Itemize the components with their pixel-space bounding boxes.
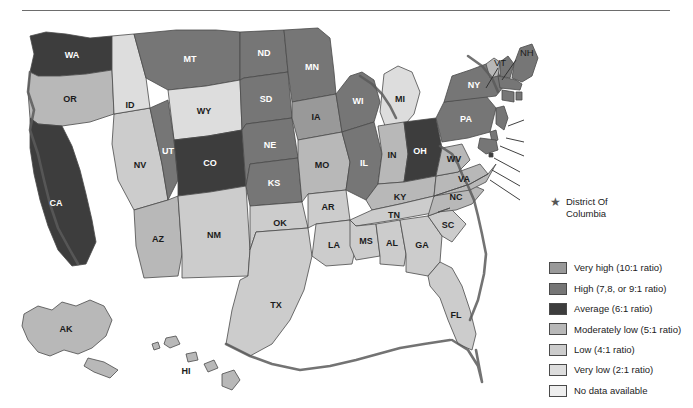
legend-swatch-moderately-low <box>549 323 567 335</box>
legend-item-very-high[interactable]: Very high (10:1 ratio) <box>549 258 691 278</box>
state-ak[interactable] <box>22 300 118 378</box>
state-mt[interactable] <box>134 30 240 90</box>
legend-swatch-high <box>549 283 567 295</box>
us-map-svg: WAORCANVIDMTWYUTCOAZNMNDSDNEKSOKTXMNIAMO… <box>0 14 545 406</box>
legend-swatch-very-high <box>549 262 567 274</box>
state-oh[interactable] <box>404 118 442 182</box>
us-map-container: WAORCANVIDMTWYUTCOAZNMNDSDNEKSOKTXMNIAMO… <box>0 14 545 406</box>
legend-label-high: High (7,8, or 9:1 ratio) <box>574 284 666 294</box>
state-ct[interactable] <box>502 90 514 102</box>
legend-swatch-no-data <box>549 385 567 397</box>
state-wy[interactable] <box>168 80 242 140</box>
legend-swatch-very-low <box>549 364 567 376</box>
dc-line-1: District Of <box>566 196 686 208</box>
state-ri[interactable] <box>516 92 522 100</box>
legend-label-low: Low (4:1 ratio) <box>574 345 635 355</box>
state-fl[interactable] <box>428 262 476 350</box>
state-la[interactable] <box>312 220 356 266</box>
dc-annotation: District Of Columbia <box>566 196 686 219</box>
state-md[interactable] <box>478 138 498 154</box>
legend-label-no-data: No data available <box>574 386 647 396</box>
legend-item-no-data[interactable]: No data available <box>549 380 691 400</box>
state-ks[interactable] <box>246 158 302 206</box>
legend-item-average[interactable]: Average (6:1 ratio) <box>549 299 691 319</box>
map-figure: WAORCANVIDMTWYUTCOAZNMNDSDNEKSOKTXMNIAMO… <box>0 0 693 408</box>
legend-label-very-low: Very low (2:1 ratio) <box>574 365 653 375</box>
legend-label-moderately-low: Moderately low (5:1 ratio) <box>574 325 681 335</box>
state-pa[interactable] <box>436 96 496 142</box>
callout-label-vt: VT <box>494 57 506 68</box>
dc-star-icon: ★ <box>550 196 561 208</box>
state-mn[interactable] <box>284 28 336 102</box>
callout-label-nh: NH <box>520 47 534 58</box>
state-ca[interactable] <box>30 118 96 266</box>
state-dc[interactable] <box>489 153 493 157</box>
state-nm[interactable] <box>178 186 250 278</box>
legend-label-very-high: Very high (10:1 ratio) <box>574 263 662 273</box>
state-label-hi: HI <box>182 366 191 376</box>
state-ms[interactable] <box>350 220 380 260</box>
legend-item-high[interactable]: High (7,8, or 9:1 ratio) <box>549 278 691 298</box>
state-in[interactable] <box>378 122 408 184</box>
legend-swatch-average <box>549 303 567 315</box>
legend-label-average: Average (6:1 ratio) <box>574 304 653 314</box>
state-nd[interactable] <box>240 30 288 80</box>
legend-swatch-low <box>549 344 567 356</box>
top-divider-rule <box>22 10 670 11</box>
dc-line-2: Columbia <box>566 208 686 220</box>
state-or[interactable] <box>28 70 114 126</box>
state-wa[interactable] <box>30 32 112 76</box>
legend-item-very-low[interactable]: Very low (2:1 ratio) <box>549 360 691 380</box>
legend-item-low[interactable]: Low (4:1 ratio) <box>549 340 691 360</box>
state-nj[interactable] <box>496 106 508 130</box>
state-co[interactable] <box>174 130 246 196</box>
map-legend: Very high (10:1 ratio)High (7,8, or 9:1 … <box>549 258 691 401</box>
state-az[interactable] <box>134 196 182 278</box>
legend-item-moderately-low[interactable]: Moderately low (5:1 ratio) <box>549 319 691 339</box>
